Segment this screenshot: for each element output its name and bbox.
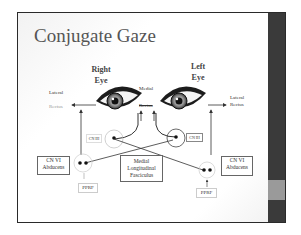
right-eye-heading: Right Eye — [81, 64, 121, 86]
right-eye-icon — [96, 87, 142, 109]
slide-sidebar — [268, 13, 285, 222]
mlf-line3: Fasciculus — [121, 172, 162, 179]
pprf-left-box: PPRF — [78, 183, 98, 193]
slide: Conjugate Gaze Right Eye Left Eye Latera… — [17, 12, 286, 223]
cn3-right-label: CN III — [186, 133, 203, 142]
cn6-left-line2: Abducens — [38, 164, 69, 171]
slide-title: Conjugate Gaze — [34, 25, 156, 47]
mlf-line1: Medial — [121, 158, 162, 165]
label-rectus-medial: Rectus — [139, 103, 153, 109]
left-eye-heading-line1: Left — [178, 61, 218, 72]
left-eye-heading: Left Eye — [178, 61, 218, 83]
cn6-left-circle — [74, 154, 92, 172]
cn3-left-label: CN III — [86, 134, 102, 143]
line-cn3-left-medial — [115, 113, 138, 139]
line-cn3-right-medial — [156, 113, 176, 137]
cn6-left-box: CN VI Abducens — [37, 156, 70, 175]
label-rectus-left: Rectus — [49, 104, 63, 110]
label-medial: Medial — [139, 86, 153, 92]
cn6-right-line2: Abducens — [222, 164, 252, 171]
mlf-box: Medial Longitudinal Fasciculus — [120, 155, 163, 182]
label-lateral-right: Lateral — [230, 95, 244, 101]
sidebar-accent — [268, 180, 285, 200]
label-rectus-right: Rectus — [230, 102, 244, 108]
mlf-line2: Longitudinal — [121, 165, 162, 172]
cn6-right-box: CN VI Abducens — [221, 156, 253, 176]
cn6-right-line1: CN VI — [222, 157, 252, 164]
right-eye-heading-line2: Eye — [81, 75, 121, 86]
cn6-right-circle — [199, 162, 215, 178]
label-lateral-left: Lateral — [49, 90, 63, 96]
right-eye-heading-line1: Right — [81, 64, 121, 75]
cn6-left-line1: CN VI — [38, 157, 69, 164]
left-eye-icon — [160, 87, 206, 109]
left-eye-heading-line2: Eye — [178, 72, 218, 83]
pprf-right-box: PPRF — [196, 188, 217, 198]
